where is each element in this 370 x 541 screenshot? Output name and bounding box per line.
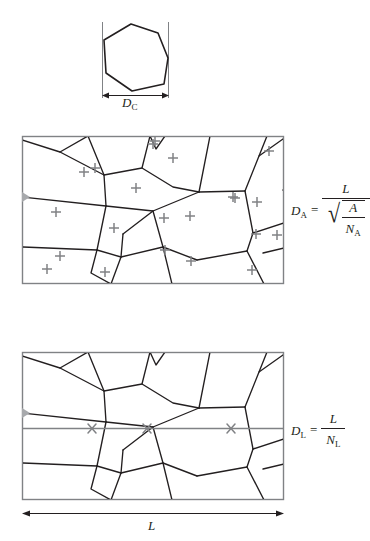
lineal-intercept-panel <box>22 352 284 517</box>
label-length-l: L <box>148 518 155 534</box>
length-arrow-l <box>22 510 284 516</box>
grain-polygon <box>104 24 168 91</box>
radical-icon: √ <box>328 201 340 239</box>
panel-frame-middle <box>23 137 284 284</box>
planimetric-panel <box>22 136 284 284</box>
formula-dl: DL = L NL <box>291 412 345 449</box>
panel-frame-bottom <box>23 353 284 500</box>
single-grain-panel <box>102 22 169 98</box>
formula-da: DA = L √ A NA <box>291 182 370 238</box>
label-dc: DC <box>122 95 137 112</box>
